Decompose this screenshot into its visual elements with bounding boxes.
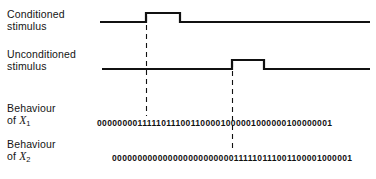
conditioned-stimulus-label-line2: stimulus (7, 20, 65, 32)
behaviour-x1-label-line1: Behaviour (7, 102, 56, 114)
behaviour-x1-bitstring: 0000000011111011100110000100000100000010… (97, 118, 332, 128)
unconditioned-stimulus-label: Unconditioned stimulus (7, 48, 76, 72)
unconditioned-stimulus-label-line1: Unconditioned (7, 48, 76, 60)
unconditioned-stimulus-label-line2: stimulus (7, 60, 76, 72)
behaviour-x1-subscript: 1 (26, 119, 30, 128)
conditioned-stimulus-label-line1: Conditioned (7, 8, 65, 20)
behaviour-x2-label-line2: of X2 (7, 150, 56, 166)
conditioned-stimulus-label: Conditioned stimulus (7, 8, 65, 32)
stimulus-behaviour-figure: Conditioned stimulus Unconditioned stimu… (0, 0, 376, 179)
behaviour-x2-label: Behaviour of X2 (7, 138, 56, 166)
behaviour-x1-label: Behaviour of X1 (7, 102, 56, 130)
behaviour-x2-bitstring: 0000000000000000000000001111101110011000… (112, 153, 352, 163)
conditioned-stimulus-trace (100, 13, 370, 22)
behaviour-x1-label-line2: of X1 (7, 114, 56, 130)
unconditioned-stimulus-trace (102, 60, 370, 69)
behaviour-x1-label-of: of (7, 114, 19, 126)
behaviour-x2-label-line1: Behaviour (7, 138, 56, 150)
behaviour-x2-label-of: of (7, 150, 19, 162)
behaviour-x2-subscript: 2 (26, 155, 30, 164)
